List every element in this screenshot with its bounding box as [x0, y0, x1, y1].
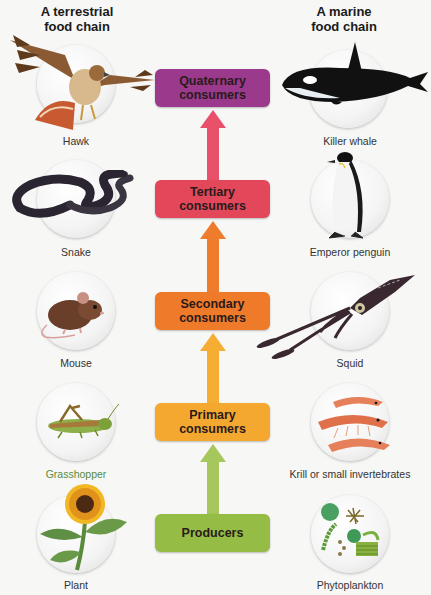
arrow-tertiary-to-quaternary: [200, 110, 226, 180]
level-tertiary-consumers: Tertiaryconsumers: [155, 180, 270, 218]
marine-title-line2: food chain: [289, 19, 399, 34]
phytoplankton-icon: [318, 500, 383, 568]
phytoplankton-label: Phytoplankton: [275, 579, 425, 591]
terrestrial-title-line1: A terrestrial: [22, 4, 132, 19]
snake-label: Snake: [1, 246, 151, 258]
arrow-secondary-to-tertiary: [200, 221, 226, 292]
hawk-icon: [5, 25, 155, 135]
killer-whale-label: Killer whale: [275, 135, 425, 147]
arrow-shaft: [207, 237, 219, 292]
level-label-line2: consumers: [179, 199, 246, 213]
arrow-primary-to-secondary: [200, 333, 226, 403]
snake-icon: [10, 170, 140, 230]
mouse-icon: [35, 285, 115, 340]
squid-icon: [250, 270, 420, 365]
level-label: Producers: [182, 526, 244, 540]
penguin-label: Emperor penguin: [275, 246, 425, 258]
level-primary-consumers: Primaryconsumers: [155, 403, 270, 441]
marine-title-line1: A marine: [289, 4, 399, 19]
penguin-icon: [325, 150, 375, 245]
level-label-line1: Secondary: [179, 297, 246, 311]
grasshopper-label: Grasshopper: [1, 468, 151, 480]
marine-title: A marine food chain: [289, 4, 399, 34]
level-label-line1: Tertiary: [179, 185, 246, 199]
grasshopper-icon: [40, 400, 120, 440]
arrow-shaft: [207, 349, 219, 403]
level-label-line2: consumers: [179, 311, 246, 325]
arrow-shaft: [207, 126, 219, 180]
level-quaternary-consumers: Quaternaryconsumers: [155, 69, 270, 107]
level-label-line1: Primary: [179, 408, 246, 422]
squid-label: Squid: [275, 357, 425, 369]
level-label-line2: consumers: [179, 88, 246, 102]
killer-whale-icon: [280, 40, 430, 110]
krill-icon: [308, 390, 393, 455]
level-label-line1: Quaternary: [179, 74, 246, 88]
arrow-producers-to-primary: [200, 444, 226, 514]
krill-label: Krill or small invertebrates: [275, 468, 425, 480]
plant-label: Plant: [1, 579, 151, 591]
mouse-label: Mouse: [1, 357, 151, 369]
hawk-label: Hawk: [1, 135, 151, 147]
level-producers: Producers: [155, 514, 270, 552]
level-label-line2: consumers: [179, 422, 246, 436]
sunflower-icon: [35, 482, 130, 572]
arrow-shaft: [207, 460, 219, 514]
